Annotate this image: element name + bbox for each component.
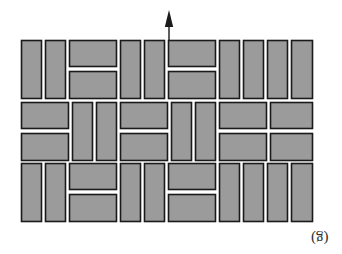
paving-tile (220, 134, 267, 161)
paving-tile (70, 41, 117, 67)
paving-tile (292, 164, 313, 222)
paving-tile (121, 164, 141, 222)
paving-tile (22, 134, 69, 161)
paving-tile (268, 164, 288, 222)
paving-tile (244, 164, 264, 222)
paving-tile (220, 103, 267, 129)
paving-tile (121, 41, 141, 99)
paving-tile (145, 164, 165, 222)
paving-pattern-svg (0, 0, 342, 254)
paving-tile (22, 41, 42, 99)
paving-tile (220, 164, 240, 222)
paving-tile (196, 103, 216, 161)
paving-tile (172, 103, 192, 161)
paving-tile (46, 41, 66, 99)
paving-pattern-figure (0, 0, 342, 254)
paving-tile (70, 164, 117, 190)
paving-tile (70, 72, 117, 99)
paving-tile (169, 72, 216, 99)
paving-tile (22, 164, 42, 222)
paving-tile (22, 103, 69, 129)
paving-tile (70, 195, 117, 222)
paving-tile (220, 41, 240, 99)
paving-tile (73, 103, 93, 161)
paving-tile (244, 41, 264, 99)
paving-tile (169, 195, 216, 222)
paving-tile (292, 41, 313, 99)
paving-tile (145, 41, 165, 99)
paving-tile (121, 134, 168, 161)
paving-tile (271, 134, 313, 161)
paving-tile (46, 164, 66, 222)
paving-tile (97, 103, 117, 161)
paving-tile (121, 103, 168, 129)
paving-tile (169, 164, 216, 190)
paving-tile (268, 41, 288, 99)
figure-caption: (g) (311, 231, 329, 246)
paving-tile (169, 41, 216, 67)
paving-tile (271, 103, 313, 129)
